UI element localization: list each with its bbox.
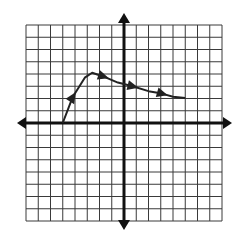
direction-arrow-icon	[66, 90, 80, 105]
y-axis-down-arrow-icon	[118, 220, 130, 230]
coordinate-plane-chart	[0, 0, 247, 242]
x-axis-right-arrow-icon	[223, 117, 232, 129]
axes	[17, 13, 232, 230]
y-axis-up-arrow-icon	[118, 13, 130, 23]
x-axis-left-arrow-icon	[17, 117, 26, 129]
direction-arrow-icon	[97, 70, 111, 83]
